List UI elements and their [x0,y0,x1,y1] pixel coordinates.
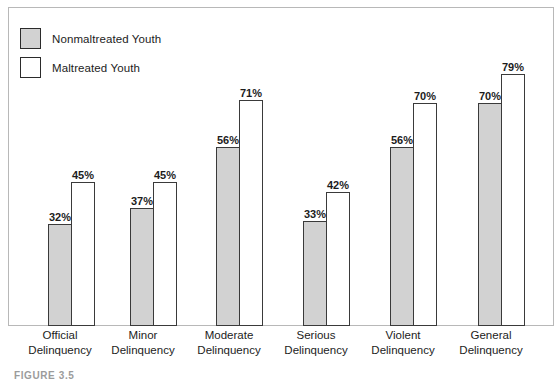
x-label-official-line1: Official [43,329,78,341]
bar-moderate-nonmaltreated: 56% [216,147,240,326]
bar-violent-maltreated: 70% [413,103,437,326]
bar-value-violent-maltreated: 70% [414,90,436,102]
bar-group-violent: 56% 70% [372,7,458,326]
legend-item-nonmaltreated-youth: Nonmaltreated Youth [20,26,161,51]
bar-group-serious: 33% 42% [285,7,371,326]
x-axis-labels: Official Delinquency Minor Delinquency M… [8,328,554,368]
legend-swatch-white-icon [20,57,41,78]
bar-value-general-maltreated: 79% [502,61,524,73]
bar-value-serious-nonmaltreated: 33% [304,208,326,220]
x-label-violent-line1: Violent [386,329,421,341]
bar-minor-nonmaltreated: 37% [130,208,154,326]
legend-label-nonmaltreated-youth: Nonmaltreated Youth [52,33,161,45]
bar-general-maltreated: 79% [501,74,525,326]
x-label-general: General Delinquency [431,328,551,358]
legend-item-maltreated-youth: Maltreated Youth [20,55,161,80]
bar-official-maltreated: 45% [71,182,95,326]
bar-value-minor-maltreated: 45% [154,169,176,181]
chart-legend: Nonmaltreated Youth Maltreated Youth [20,26,161,84]
bar-general-nonmaltreated: 70% [478,103,502,326]
bar-value-minor-nonmaltreated: 37% [131,195,153,207]
bar-official-nonmaltreated: 32% [48,224,72,326]
x-label-general-line2: Delinquency [431,343,551,358]
bar-serious-maltreated: 42% [326,192,350,326]
bar-value-general-nonmaltreated: 70% [479,90,501,102]
legend-swatch-gray-icon [20,28,41,49]
figure-caption: FIGURE 3.5 [14,370,74,381]
bar-violent-nonmaltreated: 56% [390,147,414,326]
bar-moderate-maltreated: 71% [239,100,263,326]
x-label-moderate-line1: Moderate [205,329,254,341]
figure-container: Nonmaltreated Youth Maltreated Youth 32%… [0,0,556,381]
bar-group-moderate: 56% 71% [198,7,284,326]
bar-value-official-maltreated: 45% [72,169,94,181]
x-label-minor-line1: Minor [129,329,158,341]
legend-label-maltreated-youth: Maltreated Youth [52,62,140,74]
bar-value-violent-nonmaltreated: 56% [391,134,413,146]
bar-value-moderate-nonmaltreated: 56% [217,134,239,146]
bar-minor-maltreated: 45% [153,182,177,326]
bar-value-serious-maltreated: 42% [327,179,349,191]
x-label-serious-line1: Serious [297,329,336,341]
x-label-general-line1: General [471,329,512,341]
bar-group-general: 70% 79% [460,7,546,326]
bar-serious-nonmaltreated: 33% [303,221,327,326]
bar-value-moderate-maltreated: 71% [240,87,262,99]
bar-value-official-nonmaltreated: 32% [49,211,71,223]
